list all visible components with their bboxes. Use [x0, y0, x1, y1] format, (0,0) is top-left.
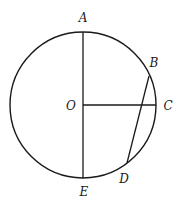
label-c: C — [163, 99, 172, 113]
label-a: A — [78, 11, 88, 25]
geometry-diagram: A B C D E O — [0, 0, 182, 204]
segment-bd — [127, 76, 149, 163]
label-b: B — [149, 56, 159, 70]
label-o: O — [66, 99, 76, 113]
label-d: D — [118, 172, 129, 186]
label-e: E — [79, 185, 89, 199]
diagram-svg: A B C D E O — [0, 0, 182, 204]
